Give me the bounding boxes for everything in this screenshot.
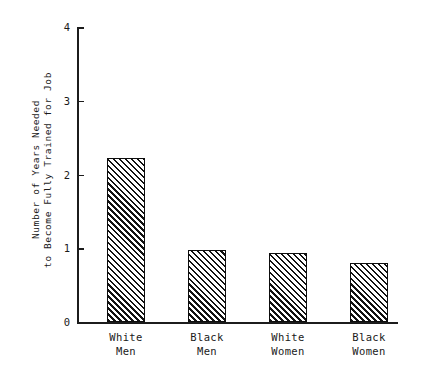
x-tick-label-black-men: Black Men	[190, 330, 224, 358]
x-tick-label-line-1: White	[109, 330, 143, 344]
x-tick-label-line-1: White	[271, 330, 305, 344]
y-tick-mark	[79, 175, 84, 177]
y-tick-label: 2	[64, 169, 70, 180]
x-tick-label-line-1: Black	[190, 330, 224, 344]
bar-white-women	[269, 253, 307, 322]
x-tick-label-line-2: Men	[109, 344, 143, 358]
plot-area: 0 1 2 3 4 White Men Black Men	[77, 27, 398, 322]
y-tick-mark	[79, 248, 84, 250]
y-tick-mark	[79, 322, 84, 324]
y-axis-title-line-1: Number of Years Needed	[31, 100, 41, 239]
y-tick-label: 3	[64, 96, 70, 107]
y-axis-title: Number of Years Needed to Become Fully T…	[12, 0, 68, 340]
x-tick-label-line-2: Women	[352, 344, 386, 358]
y-tick-label: 0	[64, 317, 70, 328]
y-tick-label: 1	[64, 243, 70, 254]
x-tick-label-black-women: Black Women	[352, 330, 386, 358]
x-axis-line	[77, 322, 398, 324]
y-axis-title-line-2: to Become Fully Trained for Job	[43, 72, 53, 268]
y-tick-mark	[79, 101, 84, 103]
y-tick-mark	[79, 27, 84, 29]
bar-black-women	[350, 263, 388, 322]
x-tick-label-line-1: Black	[352, 330, 386, 344]
x-tick-label-white-men: White Men	[109, 330, 143, 358]
bar-black-men	[188, 250, 226, 322]
bar-white-men	[107, 158, 145, 322]
y-tick-label: 4	[64, 22, 70, 33]
x-tick-label-line-2: Men	[190, 344, 224, 358]
x-tick-label-line-2: Women	[271, 344, 305, 358]
x-tick-label-white-women: White Women	[271, 330, 305, 358]
bar-chart: Number of Years Needed to Become Fully T…	[0, 0, 421, 377]
